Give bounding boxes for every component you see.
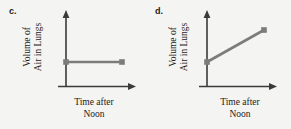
panel-d-data-marker-start [204,59,210,65]
panel-c-data-marker-start [63,59,69,65]
panel-d-x-axis-label-line2: Noon [198,109,282,121]
panel-c-y-axis-arrowhead [63,10,70,18]
panel-d-y-axis-arrowhead [204,10,211,18]
panel-d-data-line [207,30,264,62]
panel-c-data-marker-end [119,59,125,65]
panel-c-x-axis-label: Time after Noon [52,97,136,120]
panel-d-x-axis-arrowhead [269,83,277,90]
panel-c-x-axis-arrowhead [128,83,136,90]
panel-d-x-axis-label: Time after Noon [198,97,282,120]
panel-c-x-axis-label-line1: Time after [52,97,136,109]
figure-container: c. Volume of Air in Lungs Time after Noo… [0,0,291,129]
panel-d-x-axis-label-line1: Time after [198,97,282,109]
panel-d-data-marker-end [261,27,267,33]
panel-c-x-axis-label-line2: Noon [52,109,136,121]
panel-c: c. Volume of Air in Lungs Time after Noo… [0,0,145,129]
panel-d: d. Volume of Air in Lungs Time after Noo… [146,0,291,129]
